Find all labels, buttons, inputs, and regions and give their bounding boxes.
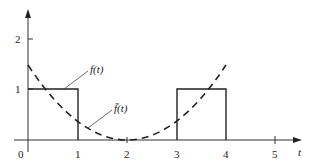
fbar-leader-line: [88, 110, 112, 128]
x-axis-label: t: [298, 146, 302, 158]
y-tick-label-2: 2: [15, 33, 21, 45]
fbar-annotation: f̄(t): [114, 102, 128, 115]
series-f-pulse-1: [28, 89, 78, 140]
x-tick-label-0: 0: [18, 148, 24, 160]
x-tick-label-3: 3: [174, 148, 180, 160]
x-tick-label-5: 5: [272, 148, 278, 160]
f-leader-line: [64, 71, 88, 89]
y-tick-label-1: 1: [15, 83, 21, 95]
x-tick-label-4: 4: [223, 148, 229, 160]
y-axis-arrow-icon: [25, 9, 31, 18]
x-tick-label-2: 2: [124, 148, 130, 160]
x-tick-label-1: 1: [75, 148, 81, 160]
chart: 2 1 0 1 2 3 4 5 t f(t) f̄(t): [0, 0, 314, 166]
f-annotation: f(t): [90, 63, 104, 76]
x-axis-arrow-icon: [293, 137, 302, 143]
